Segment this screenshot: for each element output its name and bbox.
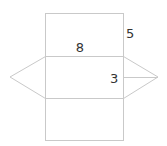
triangle-height-label: 3 [110, 71, 118, 86]
length-label: 8 [76, 40, 84, 55]
prism-net-diagram: 8 5 3 [0, 0, 167, 146]
height-label: 5 [126, 26, 134, 41]
left-triangle-face [10, 57, 46, 99]
